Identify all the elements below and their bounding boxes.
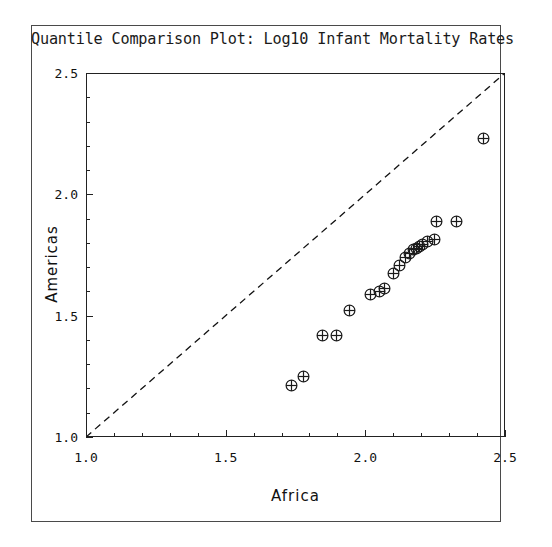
figure-canvas: Quantile Comparison Plot: Log10 Infant M…	[0, 0, 552, 547]
y-tick-major	[86, 194, 93, 195]
x-tick-minor	[114, 433, 115, 437]
y-tick-minor	[86, 291, 90, 292]
y-tick-minor	[86, 122, 90, 123]
x-tick-minor	[142, 433, 143, 437]
y-tick-minor	[86, 364, 90, 365]
x-tick-minor	[449, 433, 450, 437]
x-tick-major	[505, 430, 506, 437]
y-tick-minor	[86, 267, 90, 268]
y-tick-label: 1.0	[36, 430, 78, 445]
x-tick-minor	[254, 433, 255, 437]
y-tick-minor	[86, 388, 90, 389]
x-tick-label: 2.0	[354, 450, 377, 465]
y-tick-minor	[86, 170, 90, 171]
y-tick-minor	[86, 340, 90, 341]
chart-title: Quantile Comparison Plot: Log10 Infant M…	[31, 30, 501, 48]
plot-area	[86, 73, 505, 437]
x-tick-major	[365, 430, 366, 437]
x-tick-minor	[393, 433, 394, 437]
x-tick-minor	[421, 433, 422, 437]
x-tick-label: 1.0	[74, 450, 97, 465]
x-tick-label: 2.5	[493, 450, 516, 465]
y-tick-minor	[86, 219, 90, 220]
y-tick-major	[86, 437, 93, 438]
y-axis-title: Americas	[43, 194, 61, 334]
x-tick-minor	[282, 433, 283, 437]
x-tick-minor	[170, 433, 171, 437]
y-tick-minor	[86, 413, 90, 414]
x-tick-minor	[309, 433, 310, 437]
y-tick-label: 2.5	[36, 66, 78, 81]
y-tick-minor	[86, 243, 90, 244]
x-tick-label: 1.5	[214, 450, 237, 465]
x-tick-major	[226, 430, 227, 437]
x-tick-minor	[337, 433, 338, 437]
reference-line	[86, 73, 505, 437]
x-tick-minor	[198, 433, 199, 437]
y-tick-major	[86, 316, 93, 317]
y-tick-major	[86, 73, 93, 74]
y-tick-minor	[86, 97, 90, 98]
x-tick-minor	[477, 433, 478, 437]
x-axis-title: Africa	[86, 487, 505, 505]
y-tick-minor	[86, 146, 90, 147]
x-tick-major	[86, 430, 87, 437]
